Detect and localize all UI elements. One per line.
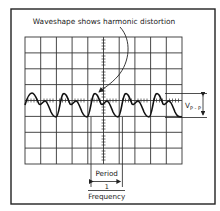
fraction-numerator: 1 <box>105 183 109 191</box>
callout-text: Waveshape shows harmonic distortion <box>33 17 176 26</box>
vpp-label: VP - P <box>185 101 201 111</box>
oscilloscope-diagram: Waveshape shows harmonic distortion <box>0 0 220 211</box>
fraction-denominator: Frequency <box>88 192 126 201</box>
period-label: Period <box>95 169 117 178</box>
